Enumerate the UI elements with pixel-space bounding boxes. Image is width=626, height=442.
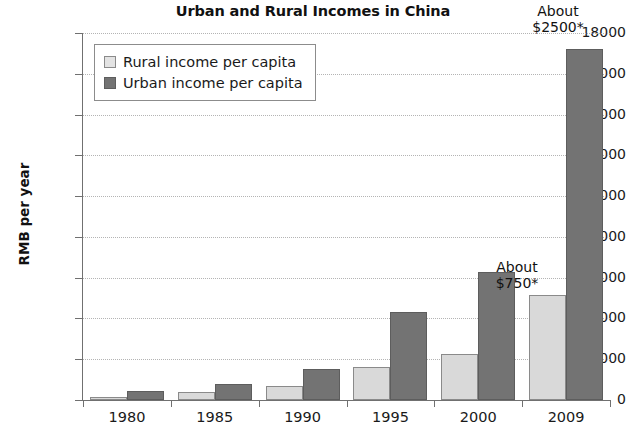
gridline — [83, 155, 610, 156]
bar-chart: Urban and Rural Incomes in China RMB per… — [0, 0, 626, 442]
annotation-line-2: $2500* — [508, 19, 608, 35]
x-tick-mark — [610, 400, 611, 407]
annotation-rural-2009: About $750* — [470, 259, 564, 291]
legend-label: Urban income per capita — [123, 75, 303, 91]
y-axis-line — [82, 33, 83, 401]
legend-label: Rural income per capita — [123, 54, 296, 70]
x-tick-mark — [522, 400, 523, 407]
legend-item-urban[interactable]: Urban income per capita — [104, 72, 303, 93]
bar-urban-1980 — [127, 391, 164, 400]
x-tick-label-1985: 1985 — [170, 409, 260, 425]
x-tick-mark — [434, 400, 435, 407]
x-tick-mark — [259, 400, 260, 407]
bar-urban-1985 — [215, 384, 252, 400]
annotation-urban-2009: About $2500* — [508, 3, 608, 35]
legend-item-rural[interactable]: Rural income per capita — [104, 51, 303, 72]
x-tick-mark — [171, 400, 172, 407]
gridline — [83, 115, 610, 116]
x-tick-label-1980: 1980 — [82, 409, 172, 425]
bar-rural-1985 — [178, 392, 215, 400]
bar-urban-1990 — [303, 369, 340, 400]
x-tick-label-2009: 2009 — [521, 409, 611, 425]
legend: Rural income per capitaUrban income per … — [94, 44, 316, 101]
annotation-line-2: $750* — [470, 275, 564, 291]
annotation-line-1: About — [470, 259, 564, 275]
x-tick-label-2000: 2000 — [433, 409, 523, 425]
bar-rural-2000 — [441, 354, 478, 400]
gridline — [83, 237, 610, 238]
bar-urban-1995 — [390, 312, 427, 400]
x-tick-label-1990: 1990 — [258, 409, 348, 425]
x-tick-label-1995: 1995 — [345, 409, 435, 425]
y-axis-label: RMB per year — [16, 134, 32, 294]
annotation-line-1: About — [508, 3, 608, 19]
bar-urban-2009 — [566, 49, 603, 400]
bar-rural-1990 — [266, 386, 303, 400]
x-tick-mark — [347, 400, 348, 407]
bar-rural-1995 — [353, 367, 390, 400]
bar-rural-2009 — [529, 295, 566, 400]
x-tick-mark — [83, 400, 84, 407]
gridline — [83, 196, 610, 197]
legend-swatch-rural-icon — [104, 56, 116, 68]
legend-swatch-urban-icon — [104, 77, 116, 89]
